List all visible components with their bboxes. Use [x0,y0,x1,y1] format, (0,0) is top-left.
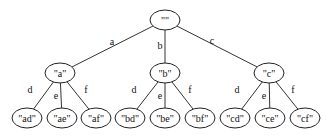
tree-node-ad: "ad" [12,108,42,128]
tree-node-bd: "bd" [115,108,145,128]
edge-a-ad [34,82,54,109]
tree-node-be: "be" [150,108,180,128]
trie-diagram: abcdefdefdef """a""b""c""ad""ae""af""bd"… [0,0,327,135]
edge-c-ce [269,83,270,108]
node-label: "c" [263,68,276,79]
edge-label: f [188,84,192,95]
node-label: "cd" [226,113,244,124]
node-label: "be" [156,113,174,124]
tree-node-ce: "ce" [255,108,285,128]
edge-label: e [54,90,59,101]
edge-label: f [291,84,295,95]
node-label: "af" [88,113,104,124]
tree-node-root: "" [150,10,180,30]
edge-label: f [84,84,88,95]
edge-root-c [177,26,257,67]
tree-node-bf: "bf" [185,108,215,128]
edge-label: c [210,35,215,46]
tree-node-a: "a" [45,63,75,83]
edge-c-cd [242,82,263,109]
edge-a-ae [60,83,61,108]
node-label: "ae" [53,113,70,124]
tree-node-cd: "cd" [220,108,250,128]
edge-b-bd [137,82,158,109]
edge-label: b [158,40,163,51]
edge-label: a [110,36,115,47]
tree-node-b: "b" [150,63,180,83]
tree-node-cf: "cf" [290,108,320,128]
node-label: "b" [158,68,171,79]
tree-canvas: abcdefdefdef """a""b""c""ad""ae""af""bd"… [0,0,327,135]
node-label: "ce" [261,113,278,124]
edge-label: e [158,90,163,101]
node-label: "bf" [192,113,209,124]
tree-node-ae: "ae" [47,108,77,128]
edge-label: d [235,84,240,95]
edge-label: e [262,90,267,101]
node-label: "bd" [121,113,139,124]
node-label: "ad" [18,113,36,124]
edge-root-a [72,26,153,67]
edge-label: d [132,84,137,95]
node-label: "cf" [297,113,313,124]
tree-node-af: "af" [81,108,111,128]
tree-node-c: "c" [254,63,284,83]
node-layer: """a""b""c""ad""ae""af""bd""be""bf""cd""… [12,10,320,128]
edge-label: d [28,84,33,95]
node-label: "" [161,15,169,26]
node-label: "a" [54,68,67,79]
